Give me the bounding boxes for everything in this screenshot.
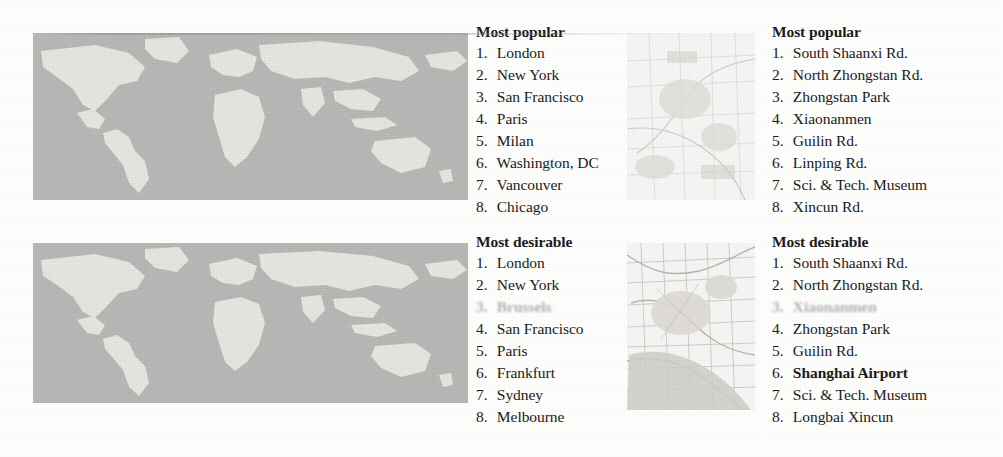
list-item: 6. Frankfurt (476, 362, 584, 384)
list-item-rank: 5. (772, 130, 789, 152)
list-heading: Most popular (476, 22, 599, 42)
list-item-rank: 7. (476, 174, 493, 196)
list-item-rank: 5. (476, 340, 493, 362)
list-item-label: Paris (493, 342, 528, 359)
list-item: 7. Sydney (476, 384, 584, 406)
list-item: 4. San Francisco (476, 318, 584, 340)
list-item: 5. Guilin Rd. (772, 340, 927, 362)
list-item-rank: 8. (772, 406, 789, 428)
list-item: 8. Chicago (476, 196, 599, 218)
list-item-rank: 5. (772, 340, 789, 362)
list-item-label: Guilin Rd. (789, 132, 858, 149)
list-item-label: Sydney (493, 386, 543, 403)
list-item-rank: 2. (476, 64, 493, 86)
ranked-list: 1. South Shaanxi Rd.2. North Zhongstan R… (772, 42, 927, 218)
list-item-label: London (493, 254, 545, 271)
list-item-label: Linping Rd. (789, 154, 867, 171)
list-item-rank: 4. (476, 108, 493, 130)
list-item-label: North Zhongstan Rd. (789, 276, 923, 293)
list-item-rank: 1. (772, 42, 789, 64)
list-item: 3. San Francisco (476, 86, 599, 108)
list-item-rank: 3. (772, 296, 789, 318)
shanghai-street-texture (627, 33, 755, 200)
list-item-label: Chicago (493, 198, 548, 215)
list-item-label: Xiaonanmen (789, 110, 872, 127)
list-item-rank: 5. (476, 130, 493, 152)
ranked-list: 1. London2. New York3. San Francisco4. P… (476, 42, 599, 218)
map-scan-grain (33, 33, 468, 200)
list-heading: Most popular (772, 22, 927, 42)
list-item: 2. North Zhongstan Rd. (772, 274, 927, 296)
list-item-rank: 4. (772, 318, 789, 340)
list-item: 6. Washington, DC (476, 152, 599, 174)
list-world-desirable: Most desirable 1. London2. New York3. Br… (476, 232, 584, 428)
list-heading: Most desirable (476, 232, 584, 252)
list-item-label: Shanghai Airport (789, 364, 908, 381)
list-item-rank: 7. (476, 384, 493, 406)
list-item-rank: 3. (476, 86, 493, 108)
list-item-label: Frankfurt (493, 364, 555, 381)
list-item-rank: 6. (772, 362, 789, 384)
list-item-rank: 2. (772, 274, 789, 296)
list-item-rank: 3. (476, 296, 493, 318)
list-item-label: North Zhongstan Rd. (789, 66, 923, 83)
list-item-label: Melbourne (493, 408, 564, 425)
list-item-rank: 4. (772, 108, 789, 130)
world-map-desirable (33, 243, 468, 403)
map-scan-grain (33, 243, 468, 403)
list-item-rank: 2. (772, 64, 789, 86)
list-item: 7. Sci. & Tech. Museum (772, 174, 927, 196)
list-item: 1. South Shaanxi Rd. (772, 252, 927, 274)
list-item: 2. New York (476, 64, 599, 86)
list-item: 8. Xincun Rd. (772, 196, 927, 218)
list-item: 1. South Shaanxi Rd. (772, 42, 927, 64)
list-item-label: Vancouver (493, 176, 562, 193)
list-item: 1. London (476, 42, 599, 64)
list-item-label: Xincun Rd. (789, 198, 864, 215)
list-item-label: Milan (493, 132, 534, 149)
list-item-rank: 1. (476, 42, 493, 64)
list-item-rank: 6. (476, 152, 493, 174)
list-heading: Most desirable (772, 232, 927, 252)
list-item-label: Zhongstan Park (789, 320, 890, 337)
list-item-rank: 3. (772, 86, 789, 108)
list-item-label: New York (493, 276, 559, 293)
list-item: 5. Paris (476, 340, 584, 362)
list-item: 3. Zhongstan Park (772, 86, 927, 108)
list-item: 5. Milan (476, 130, 599, 152)
list-item: 8. Melbourne (476, 406, 584, 428)
list-item: 7. Sci. & Tech. Museum (772, 384, 927, 406)
list-item-rank: 6. (476, 362, 493, 384)
list-item-label: Longbai Xincun (789, 408, 893, 425)
list-item-label: South Shaanxi Rd. (789, 254, 908, 271)
list-item: 4. Zhongstan Park (772, 318, 927, 340)
list-item: 4. Xiaonanmen (772, 108, 927, 130)
list-item: 3. Brussels (476, 296, 584, 318)
list-item-rank: 2. (476, 274, 493, 296)
list-item-rank: 8. (476, 196, 493, 218)
list-world-popular: Most popular 1. London2. New York3. San … (476, 22, 599, 218)
list-item: 7. Vancouver (476, 174, 599, 196)
list-item: 3. Xiaonanmen (772, 296, 927, 318)
list-item-rank: 6. (772, 152, 789, 174)
list-item-rank: 1. (476, 252, 493, 274)
list-item: 4. Paris (476, 108, 599, 130)
shanghai-street-texture (627, 243, 755, 410)
list-item-label: Xiaonanmen (789, 298, 877, 315)
list-item-label: Paris (493, 110, 528, 127)
list-item-label: New York (493, 66, 559, 83)
list-item-label: San Francisco (493, 320, 584, 337)
list-item-rank: 8. (476, 406, 493, 428)
list-item-rank: 7. (772, 174, 789, 196)
world-map-popular (33, 33, 468, 200)
list-item: 8. Longbai Xincun (772, 406, 927, 428)
list-item-label: Zhongstan Park (789, 88, 890, 105)
ranked-list: 1. London2. New York3. Brussels4. San Fr… (476, 252, 584, 428)
list-item-label: Sci. & Tech. Museum (789, 386, 927, 403)
list-item: 1. London (476, 252, 584, 274)
ranked-list: 1. South Shaanxi Rd.2. North Zhongstan R… (772, 252, 927, 428)
list-item-label: Sci. & Tech. Museum (789, 176, 927, 193)
list-item-rank: 4. (476, 318, 493, 340)
list-item-label: South Shaanxi Rd. (789, 44, 908, 61)
list-shanghai-desirable: Most desirable 1. South Shaanxi Rd.2. No… (772, 232, 927, 428)
